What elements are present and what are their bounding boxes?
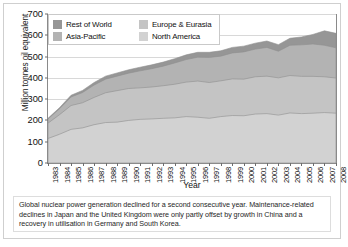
legend-label: Rest of World xyxy=(66,20,112,29)
x-axis-tick-mark xyxy=(290,163,291,166)
y-axis-tick-mark xyxy=(45,141,48,142)
y-axis-tick-label: 100 xyxy=(27,137,43,147)
x-axis-tick-mark xyxy=(336,163,337,166)
y-axis-tick-label: 600 xyxy=(27,30,43,40)
legend-swatch-icon xyxy=(139,32,148,41)
y-axis-tick-label: 500 xyxy=(27,52,43,62)
x-axis-tick-mark xyxy=(71,163,72,166)
y-axis-tick-mark xyxy=(45,56,48,57)
figure-caption: Global nuclear power generation declined… xyxy=(13,196,331,232)
x-axis-tick-mark xyxy=(152,163,153,166)
x-axis-tick-mark xyxy=(175,163,176,166)
x-axis-tick-mark xyxy=(324,163,325,166)
y-axis-tick-mark xyxy=(45,99,48,100)
y-axis-tick-label: 300 xyxy=(27,94,43,104)
y-axis-tick-label: 200 xyxy=(27,115,43,125)
legend-swatch-icon xyxy=(53,20,62,29)
x-axis-tick-mark xyxy=(60,163,61,166)
x-axis-tick-mark xyxy=(244,163,245,166)
legend-item-asia-pacific: Asia-Pacific xyxy=(53,31,139,44)
x-axis-tick-mark xyxy=(163,163,164,166)
x-axis-tick-mark xyxy=(232,163,233,166)
x-axis-tick-mark xyxy=(186,163,187,166)
x-axis-tick-mark xyxy=(94,163,95,166)
x-axis-tick-mark xyxy=(278,163,279,166)
y-axis-tick-mark xyxy=(45,77,48,78)
x-axis-tick-mark xyxy=(117,163,118,166)
legend-label: Europe & Eurasia xyxy=(152,20,211,29)
x-axis-tick-mark xyxy=(140,163,141,166)
y-axis-tick-mark xyxy=(45,120,48,121)
legend-label: Asia-Pacific xyxy=(66,32,105,41)
legend-label: North America xyxy=(152,32,200,41)
y-axis-tick-label: 700 xyxy=(27,9,43,19)
x-axis-tick-label: 2008 xyxy=(339,167,348,183)
x-axis-tick-mark xyxy=(106,163,107,166)
x-axis-tick-mark xyxy=(313,163,314,166)
x-axis-tick-mark xyxy=(267,163,268,166)
x-axis-tick-mark xyxy=(255,163,256,166)
x-axis-tick-mark xyxy=(209,163,210,166)
legend-item-europe-eurasia: Europe & Eurasia xyxy=(139,18,225,31)
chart-legend: Rest of World Europe & Eurasia Asia-Paci… xyxy=(48,14,220,45)
legend-item-north-america: North America xyxy=(139,31,225,44)
legend-swatch-icon xyxy=(139,20,148,29)
x-axis-tick-mark xyxy=(129,163,130,166)
x-axis-title: Year xyxy=(47,180,337,190)
x-axis-tick-mark xyxy=(48,163,49,166)
x-axis-tick-mark xyxy=(301,163,302,166)
legend-item-rest-of-world: Rest of World xyxy=(53,18,139,31)
legend-swatch-icon xyxy=(53,32,62,41)
y-axis-tick-label: 400 xyxy=(27,73,43,83)
x-axis-tick-mark xyxy=(221,163,222,166)
x-axis-tick-mark xyxy=(198,163,199,166)
x-axis-tick-mark xyxy=(83,163,84,166)
y-axis-tick-label: 0 xyxy=(38,158,43,168)
